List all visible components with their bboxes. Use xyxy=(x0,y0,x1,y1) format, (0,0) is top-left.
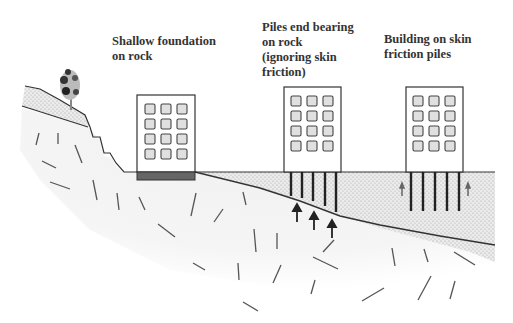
label-line: Piles end bearing xyxy=(262,20,354,35)
building-skin-friction xyxy=(400,87,470,211)
building-shallow xyxy=(137,95,195,180)
label-line: on rock xyxy=(262,35,354,50)
label-line: friction piles xyxy=(384,47,472,62)
label-end-bearing-piles: Piles end bearing on rock (ignoring skin… xyxy=(262,20,354,80)
label-shallow-foundation: Shallow foundation on rock xyxy=(112,34,216,64)
label-line: Building on skin xyxy=(384,32,472,47)
label-line: Shallow foundation xyxy=(112,34,216,49)
label-line: on rock xyxy=(112,49,216,64)
label-line: (ignoring skin xyxy=(262,50,354,65)
label-skin-friction-piles: Building on skin friction piles xyxy=(384,32,472,62)
label-line: friction) xyxy=(262,65,354,80)
